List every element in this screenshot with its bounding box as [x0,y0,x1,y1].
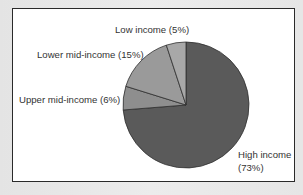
label-lower-mid-income: Lower mid-income (15%) [37,49,144,60]
label-high-income-line2: (73%) [238,162,264,173]
label-upper-mid-income: Upper mid-income (6%) [19,94,120,105]
pie-slices [123,42,249,168]
pie-chart: Low income (5%) Lower mid-income (15%) U… [0,0,303,195]
label-low-income: Low income (5%) [115,24,189,35]
label-high-income-line1: High income [238,149,291,160]
